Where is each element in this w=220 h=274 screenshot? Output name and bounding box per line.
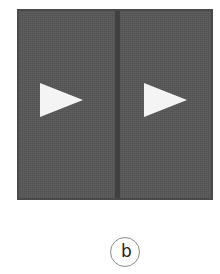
play-triangle-icon	[40, 83, 83, 117]
figure-label-badge: b	[110, 237, 140, 267]
dark-split-panel	[17, 9, 213, 200]
figure-label: b	[121, 243, 132, 260]
play-triangle-icon	[144, 83, 187, 117]
panel-divider	[115, 11, 120, 198]
